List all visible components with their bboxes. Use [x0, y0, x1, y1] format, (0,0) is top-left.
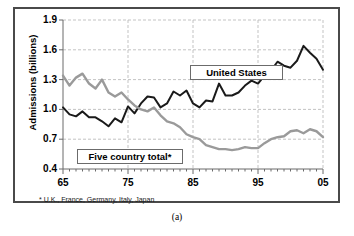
legend-five-country-total-label: Five country total*: [89, 151, 172, 162]
chart-plot-area: [15, 9, 342, 205]
x-tick-label: 65: [49, 177, 77, 188]
y-tick-label: 1.3: [19, 74, 57, 85]
figure-caption: (a): [0, 212, 354, 222]
y-tick-label: 0.7: [19, 133, 57, 144]
x-tick-label: 95: [244, 177, 272, 188]
gridlines: [63, 20, 323, 169]
footnote: * U.K., France, Germany, Italy, Japan: [39, 196, 154, 203]
figure-container: Admissions (billions) 0.40.71.01.31.61.9…: [0, 0, 354, 236]
x-tick-label: 75: [114, 177, 142, 188]
legend-united-states-label: United States: [206, 67, 267, 78]
y-tick-label: 0.4: [19, 163, 57, 174]
y-tick-label: 1.9: [19, 14, 57, 25]
y-tick-label: 1.6: [19, 44, 57, 55]
x-tick-label: 05: [309, 177, 337, 188]
y-tick-label: 1.0: [19, 103, 57, 114]
chart-frame: Admissions (billions) 0.40.71.01.31.61.9…: [13, 7, 340, 203]
x-tick-label: 85: [179, 177, 207, 188]
legend-united-states: United States: [190, 65, 283, 80]
legend-five-country-total: Five country total*: [77, 149, 183, 164]
